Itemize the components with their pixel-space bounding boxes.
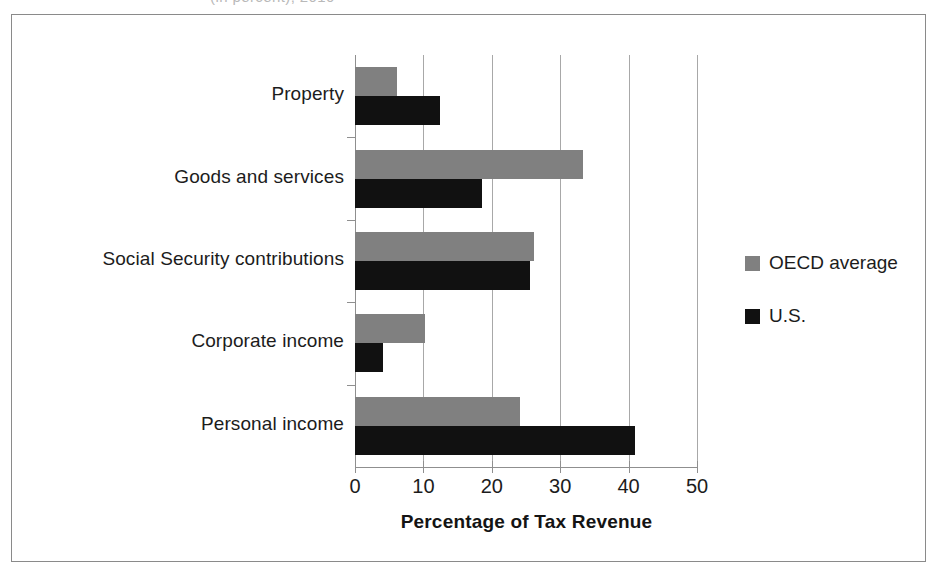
x-axis-tick-label-40: 40 [609, 475, 649, 498]
legend-item-u-s: U.S. [745, 303, 898, 329]
x-axis-tick-50 [697, 461, 698, 473]
gridline-30 [560, 55, 561, 467]
y-axis-tick-3 [347, 302, 355, 303]
y-axis-tick-2 [347, 220, 355, 221]
x-axis-tick-20 [492, 461, 493, 473]
x-axis-tick-label-50: 50 [677, 475, 717, 498]
category-label-personal-income: Personal income [26, 413, 344, 435]
x-axis-tick-10 [423, 461, 424, 473]
chart-frame: 01020304050 PropertyGoods and servicesSo… [11, 14, 926, 562]
y-axis-tick-1 [347, 137, 355, 138]
chart-screenshot: (in percent), 2010 01020304050 PropertyG… [0, 0, 937, 578]
legend-swatch-icon [745, 309, 760, 324]
bar-u-s-personal-income [355, 426, 635, 455]
bar-u-s-property [355, 96, 440, 125]
x-axis-title: Percentage of Tax Revenue [355, 511, 698, 533]
legend-item-oecd-average: OECD average [745, 250, 898, 276]
category-label-social-security-contributions: Social Security contributions [26, 248, 344, 270]
x-axis-tick-label-10: 10 [403, 475, 443, 498]
x-axis-tick-label-30: 30 [540, 475, 580, 498]
bar-oecd-average-property [355, 67, 397, 96]
x-axis-tick-30 [560, 461, 561, 473]
bar-oecd-average-corporate-income [355, 314, 425, 343]
bar-u-s-corporate-income [355, 343, 383, 372]
gridline-40 [629, 55, 630, 467]
bar-oecd-average-personal-income [355, 397, 520, 426]
gridline-50 [697, 55, 698, 467]
category-label-goods-and-services: Goods and services [26, 166, 344, 188]
cut-off-title-text: (in percent), 2010 [210, 0, 335, 5]
bar-oecd-average-social-security-contributions [355, 232, 534, 261]
category-label-property: Property [26, 83, 344, 105]
bar-u-s-social-security-contributions [355, 261, 530, 290]
chart-legend: OECD averageU.S. [745, 250, 898, 356]
legend-label: OECD average [769, 252, 898, 274]
category-axis-labels: PropertyGoods and servicesSocial Securit… [26, 55, 344, 467]
legend-label: U.S. [769, 305, 806, 327]
bar-oecd-average-goods-and-services [355, 150, 583, 179]
x-axis-tick-0 [355, 461, 356, 473]
scan-artifact-top-sliver: (in percent), 2010 [0, 0, 937, 13]
bar-u-s-goods-and-services [355, 179, 482, 208]
category-label-corporate-income: Corporate income [26, 330, 344, 352]
x-axis-tick-label-20: 20 [472, 475, 512, 498]
legend-swatch-icon [745, 256, 760, 271]
x-axis-tick-40 [629, 461, 630, 473]
x-axis-line [355, 467, 698, 468]
y-axis-tick-4 [347, 385, 355, 386]
plot-area [355, 55, 697, 467]
x-axis-tick-label-0: 0 [335, 475, 375, 498]
